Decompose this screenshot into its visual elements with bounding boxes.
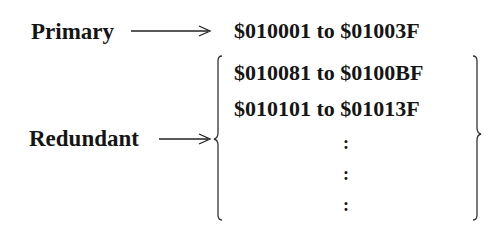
right-brace-icon xyxy=(473,56,481,220)
continuation-dots-2: : xyxy=(343,165,349,183)
redundant-arrow-icon xyxy=(159,134,210,144)
redundant-range-1: $010081 to $0100BF xyxy=(234,62,423,84)
redundant-range-2: $010101 to $01013F xyxy=(234,98,420,120)
primary-label: Primary xyxy=(31,20,114,43)
continuation-dots-3: : xyxy=(343,196,349,214)
primary-range: $010001 to $01003F xyxy=(234,20,420,42)
left-brace-icon xyxy=(214,56,222,220)
primary-arrow-icon xyxy=(131,26,210,36)
redundant-label: Redundant xyxy=(29,127,139,150)
continuation-dots-1: : xyxy=(343,134,349,152)
